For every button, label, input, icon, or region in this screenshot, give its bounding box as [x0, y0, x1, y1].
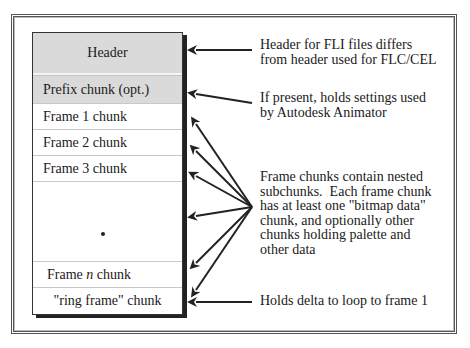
arrow-frame-3	[196, 176, 252, 207]
note-prefix: If present, holds settings used by Autod…	[260, 91, 426, 120]
note-header: Header for FLI files differs from header…	[260, 38, 437, 67]
note-ring-frame: Holds delta to loop to frame 1	[260, 294, 428, 309]
arrow-prefix	[196, 94, 252, 103]
arrow-frame-2	[196, 151, 252, 207]
arrow-ring-from-frames	[196, 207, 252, 290]
note-frame-chunks: Frame chunks contain nested subchunks. E…	[260, 170, 431, 257]
arrow-frame-1	[196, 124, 252, 207]
